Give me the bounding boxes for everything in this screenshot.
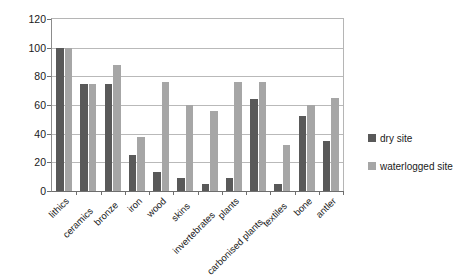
bar-group: [198, 19, 222, 191]
bar-wet-antler: [331, 98, 339, 191]
bar-dry-wood: [153, 172, 161, 191]
bar-dry-carbonised-plants: [250, 99, 258, 191]
x-axis-label-antler: antler: [246, 196, 338, 279]
x-axis-label-ceramics: ceramics: [4, 206, 96, 279]
x-axis-label-bronze: bronze: [28, 200, 120, 279]
bar-group: [222, 19, 246, 191]
bar-dry-skins: [177, 178, 185, 191]
bar-group: [270, 19, 294, 191]
bar-group: [295, 19, 319, 191]
bar-group: [76, 19, 100, 191]
bar-dry-lithics: [56, 48, 64, 191]
bar-wet-iron: [137, 137, 145, 191]
bar-group: [246, 19, 270, 191]
x-axis-tick-mark: [222, 191, 223, 195]
x-axis-tick-mark: [343, 191, 344, 195]
bar-wet-bone: [307, 105, 315, 191]
bar-wet-bronze: [113, 65, 121, 191]
x-axis-label-invertebrates: invertebrates: [125, 210, 217, 279]
legend-item-dry: dry site: [368, 133, 458, 144]
legend-label-wet: waterlogged site: [380, 161, 453, 172]
x-axis-label-carbonised-plants: carbonised plants: [173, 217, 265, 279]
x-axis-tick-mark: [76, 191, 77, 195]
chart-legend: dry sitewaterlogged site: [368, 133, 458, 189]
bar-wet-plants: [234, 82, 242, 191]
x-axis-label-bone: bone: [222, 196, 314, 279]
bar-wet-invertebrates: [210, 111, 218, 191]
bar-group: [52, 19, 76, 191]
x-axis-label-skins: skins: [101, 201, 193, 279]
x-axis-tick-mark: [125, 191, 126, 195]
bar-dry-invertebrates: [202, 184, 210, 191]
bar-dry-antler: [323, 141, 331, 191]
bar-group: [149, 19, 173, 191]
y-axis-tick-label: 120: [12, 14, 46, 24]
bar-dry-textiles: [274, 184, 282, 191]
y-axis-tick-label: 100: [12, 43, 46, 53]
y-axis-tick-label: 0: [12, 186, 46, 196]
bar-dry-bone: [299, 116, 307, 191]
bar-wet-wood: [162, 82, 170, 191]
x-axis-tick-mark: [101, 191, 102, 195]
x-axis-label-iron: iron: [52, 196, 144, 279]
y-axis-tick-label: 40: [12, 129, 46, 139]
bar-wet-lithics: [65, 48, 73, 191]
y-axis-tick-label: 60: [12, 100, 46, 110]
x-axis-tick-mark: [270, 191, 271, 195]
bar-dry-iron: [129, 155, 137, 191]
bar-wet-carbonised-plants: [259, 82, 267, 191]
bar-wet-skins: [186, 105, 194, 191]
legend-swatch-wet: [368, 162, 376, 170]
bar-group: [173, 19, 197, 191]
x-axis-tick-mark: [198, 191, 199, 195]
bar-wet-ceramics: [89, 84, 97, 192]
bars-layer: [52, 19, 343, 191]
bar-group: [101, 19, 125, 191]
x-axis-label-plants: plants: [149, 196, 241, 279]
x-axis-tick-mark: [246, 191, 247, 195]
x-axis-tick-mark: [295, 191, 296, 195]
x-axis-label-wood: wood: [76, 196, 168, 279]
bar-wet-textiles: [283, 145, 291, 191]
y-axis-tick-label: 80: [12, 71, 46, 81]
bar-group: [125, 19, 149, 191]
bar-dry-ceramics: [80, 84, 88, 192]
x-axis-label-lithics: lithics: [0, 196, 71, 279]
bar-dry-bronze: [105, 84, 113, 192]
x-axis-tick-mark: [173, 191, 174, 195]
bar-chart: % surviving 020406080100120 lithicsceram…: [0, 0, 460, 279]
bar-group: [319, 19, 343, 191]
x-axis-label-textiles: textiles: [198, 201, 290, 279]
y-axis-tick-label: 20: [12, 157, 46, 167]
bar-dry-plants: [226, 178, 234, 191]
legend-label-dry: dry site: [380, 133, 412, 144]
x-axis-tick-mark: [319, 191, 320, 195]
x-axis-tick-mark: [149, 191, 150, 195]
legend-swatch-dry: [368, 134, 376, 142]
legend-item-wet: waterlogged site: [368, 161, 458, 172]
